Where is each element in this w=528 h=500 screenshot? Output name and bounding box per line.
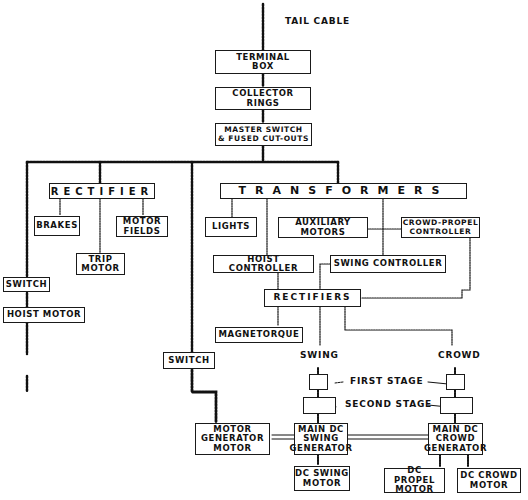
crowd-propel-controller-node: CROWD-PROPEL CONTROLLER bbox=[401, 217, 480, 238]
collector-rings-node: COLLECTOR RINGS bbox=[215, 87, 311, 110]
crowd-label: CROWD bbox=[438, 350, 481, 360]
swing-second-stage-box bbox=[303, 397, 336, 414]
dc-crowd-motor-node: DC CROWD MOTOR bbox=[457, 468, 521, 493]
tail-cable-label: TAIL CABLE bbox=[285, 16, 350, 26]
main-dc-swing-generator-node: MAIN DC SWING GENERATOR bbox=[294, 423, 348, 455]
swing-controller-node: SWING CONTROLLER bbox=[330, 255, 446, 273]
main-dc-crowd-generator-node: MAIN DC CROWD GENERATOR bbox=[428, 423, 483, 455]
motor-generator-motor-node: MOTOR GENERATOR MOTOR bbox=[195, 423, 270, 455]
motor-fields-node: MOTOR FIELDS bbox=[116, 216, 168, 237]
rectifiers-node: RECTIFIERS bbox=[264, 289, 361, 307]
hoist-motor-node: HOIST MOTOR bbox=[3, 307, 85, 323]
dc-swing-motor-node: DC SWING MOTOR bbox=[294, 466, 350, 491]
magnetorque-node: MAGNETORQUE bbox=[215, 327, 303, 343]
crowd-second-stage-box bbox=[440, 397, 473, 414]
rectifier-node: RECTIFIER bbox=[49, 183, 155, 199]
brakes-node: BRAKES bbox=[34, 216, 80, 236]
dc-propel-motor-node: DC PROPEL MOTOR bbox=[384, 468, 445, 493]
swing-first-stage-box bbox=[309, 374, 328, 390]
switch-mid-node: SWITCH bbox=[163, 352, 215, 369]
first-stage-label: FIRST STAGE bbox=[350, 376, 423, 386]
swing-label: SWING bbox=[300, 350, 339, 360]
hoist-controller-node: HOIST CONTROLLER bbox=[213, 255, 314, 273]
terminal-box-node: TERMINAL BOX bbox=[215, 50, 311, 74]
master-switch-node: MASTER SWITCH & FUSED CUT-OUTS bbox=[215, 123, 312, 146]
switch-left-node: SWITCH bbox=[3, 277, 50, 292]
lights-node: LIGHTS bbox=[205, 217, 257, 237]
second-stage-label: SECOND STAGE bbox=[345, 399, 432, 409]
transformers-node: TRANSFORMERS bbox=[220, 183, 467, 199]
auxiliary-motors-node: AUXILIARY MOTORS bbox=[278, 217, 368, 238]
trip-motor-node: TRIP MOTOR bbox=[76, 253, 125, 275]
crowd-first-stage-box bbox=[446, 374, 465, 390]
